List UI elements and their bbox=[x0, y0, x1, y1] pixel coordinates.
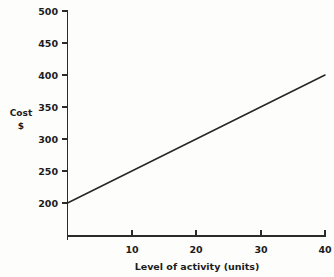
x-axis-ticks bbox=[68, 230, 326, 240]
x-tick-label-40: 40 bbox=[318, 244, 332, 255]
y-tick-label-200: 200 bbox=[38, 198, 58, 209]
x-tick-label-30: 30 bbox=[254, 244, 268, 255]
x-axis-title: Level of activity (units) bbox=[135, 261, 260, 272]
y-axis-title: Cost bbox=[10, 108, 33, 118]
y-tick-label-450: 450 bbox=[38, 38, 58, 49]
y-axis-ticks bbox=[62, 11, 68, 203]
y-tick-label-400: 400 bbox=[38, 70, 58, 81]
cost-behaviour-chart: 500 450 400 350 300 250 200 10 20 30 40 … bbox=[0, 0, 334, 277]
x-tick-label-20: 20 bbox=[189, 244, 203, 255]
chart-plot-area: 500 450 400 350 300 250 200 10 20 30 40 … bbox=[0, 0, 334, 277]
y-tick-label-250: 250 bbox=[38, 166, 58, 177]
x-tick-label-10: 10 bbox=[125, 244, 139, 255]
y-axis-unit-label: $ bbox=[18, 121, 24, 131]
y-tick-label-350: 350 bbox=[38, 102, 58, 113]
y-tick-label-500: 500 bbox=[38, 6, 58, 17]
y-tick-label-300: 300 bbox=[38, 134, 58, 145]
total-cost-line bbox=[68, 75, 326, 203]
